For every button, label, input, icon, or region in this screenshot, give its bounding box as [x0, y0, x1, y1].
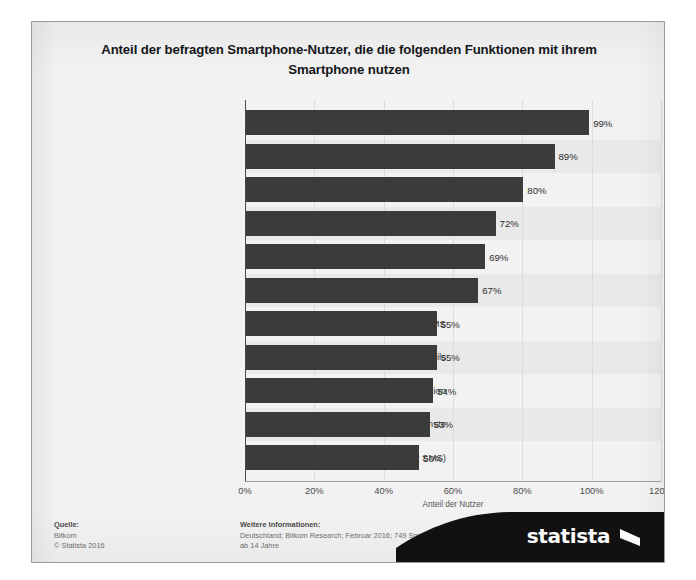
category-label: Foto-/Videokamera: [365, 150, 446, 161]
plot-area: 99%89%80%72%69%67%55%55%54%53%50% 0%20%4…: [245, 100, 661, 482]
bar: [246, 311, 437, 336]
bar-value-label: 89%: [559, 151, 578, 162]
x-tick-label: 20%: [305, 486, 324, 496]
bar-value-label: 69%: [489, 251, 508, 262]
x-axis-line: [245, 481, 661, 482]
category-label: Kurznachrichtendienste (außer SMS): [288, 452, 446, 463]
category-label: Telefonieren: [394, 117, 446, 128]
category-label: Weckfunktion: [389, 385, 446, 396]
chart-title: Anteil der befragten Smartphone-Nutzer, …: [66, 40, 632, 80]
chart-card: Anteil der befragten Smartphone-Nutzer, …: [31, 21, 665, 563]
bar-row: 53%: [245, 412, 661, 437]
copyright-text: © Statista 2016: [54, 541, 105, 552]
bar-row: 55%: [245, 345, 661, 370]
bar-value-label: 72%: [500, 218, 519, 229]
category-label: Suchmaschine: [383, 184, 446, 195]
chart-canvas: 99%89%80%72%69%67%55%55%54%53%50% 0%20%4…: [32, 92, 665, 492]
bar-row: 99%: [245, 110, 661, 135]
bar-value-label: 80%: [527, 184, 546, 195]
statista-mark-icon: [620, 529, 640, 546]
bar-value-label: 67%: [482, 285, 501, 296]
x-tick-label: 80%: [513, 486, 532, 496]
category-label: Navigations/ Kartendienste: [331, 418, 446, 429]
x-tick-label: 120%: [649, 486, 665, 496]
bar-row: 55%: [245, 311, 661, 336]
category-label: Soziale Netzwerke: [367, 284, 446, 295]
statista-wordmark: statista: [527, 524, 610, 548]
source-heading: Quelle:: [54, 520, 105, 531]
bar-value-label: 99%: [593, 117, 612, 128]
x-tick-label: 60%: [444, 486, 463, 496]
source-name: Bitkom: [54, 531, 105, 542]
category-label: E-Mails: [414, 351, 446, 362]
bar-row: 80%: [245, 177, 661, 202]
x-tick-label: 40%: [374, 486, 393, 496]
source-block: Quelle: Bitkom © Statista 2016: [54, 520, 105, 552]
bar-row: 72%: [245, 211, 661, 236]
statista-logo: statista: [396, 504, 664, 562]
bar: [246, 244, 485, 269]
bar-row: 69%: [245, 244, 661, 269]
screenshot-root: Anteil der befragten Smartphone-Nutzer, …: [0, 0, 696, 580]
bar-row: 89%: [245, 144, 661, 169]
bar: [246, 345, 437, 370]
category-label: Kalender/Terminplaner: [349, 217, 446, 228]
bar-row: 54%: [245, 378, 661, 403]
category-label: SMS: [425, 318, 446, 329]
x-tick-label: 100%: [580, 486, 604, 496]
bar-row: 67%: [245, 278, 661, 303]
category-label: Musik hören: [394, 251, 446, 262]
gridline: [661, 100, 662, 482]
x-tick-label: 0%: [238, 486, 251, 496]
